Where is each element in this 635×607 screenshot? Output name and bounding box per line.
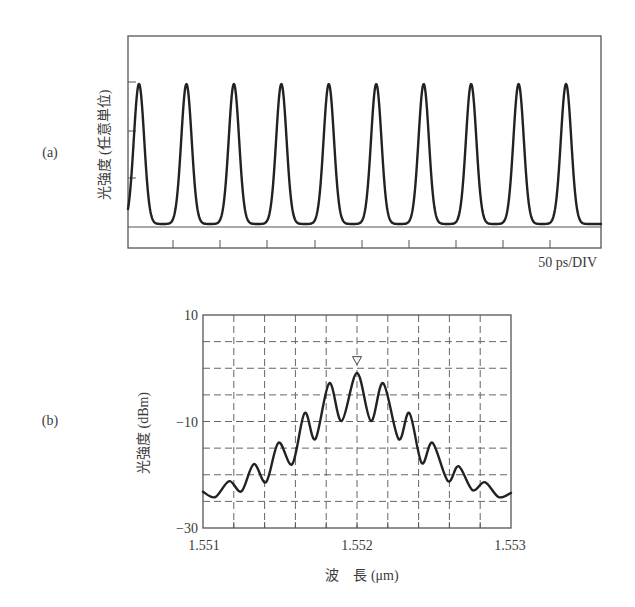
panel-a-x-scale-label: 50 ps/DIV (538, 255, 597, 270)
panel-a-pulse-curve (128, 84, 601, 224)
panel-b-x-axis-label: 波 長 (μm) (325, 568, 399, 584)
panel-b-grid (203, 315, 511, 528)
panel-b-spectrum-curve (203, 373, 511, 497)
panel-a-x-ticks (173, 240, 550, 248)
panel-a-label: (a) (42, 145, 58, 161)
panel-b-y-tick-10: 10 (184, 308, 198, 323)
panel-b-x-ticks (234, 522, 480, 528)
panel-b-y-tick-minus30: −30 (176, 521, 198, 536)
panel-b-x-tick-1552: 1.552 (341, 538, 373, 553)
panel-b-y-tick-minus10: −10 (176, 415, 198, 430)
panel-b-x-tick-1551: 1.551 (188, 538, 220, 553)
figure: (a) 光強度 (任意単位) 50 ps/DIV (b) 光強度 (dBm) 1… (0, 0, 635, 607)
panel-b-spectrum-chart: (b) 光強度 (dBm) 10 −10 −30 1.551 1.552 1.5… (42, 308, 526, 584)
panel-b-x-tick-1553: 1.553 (494, 538, 526, 553)
panel-a-pulse-train-chart: (a) 光強度 (任意単位) 50 ps/DIV (42, 36, 601, 270)
peak-marker-triangle-icon (353, 357, 362, 365)
panel-b-y-axis-label: 光強度 (dBm) (136, 392, 152, 474)
panel-b-label: (b) (42, 413, 59, 429)
panel-a-y-axis-label: 光強度 (任意単位) (96, 89, 113, 200)
